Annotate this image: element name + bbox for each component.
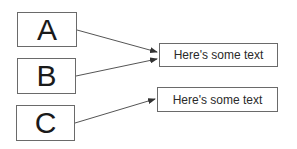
arrow-b-to-text1 [76, 59, 157, 76]
source-box-c: C [16, 105, 75, 141]
source-box-a: A [17, 12, 77, 47]
source-label-b: B [36, 61, 56, 91]
target-box-1: Here's some text [159, 43, 278, 67]
target-label-2: Here's some text [173, 93, 263, 107]
source-box-b: B [17, 58, 76, 94]
source-label-a: A [37, 15, 57, 45]
target-label-1: Here's some text [174, 48, 264, 62]
target-box-2: Here's some text [157, 87, 278, 112]
arrow-c-to-text2 [75, 99, 155, 123]
source-label-c: C [35, 108, 57, 138]
arrow-a-to-text1 [77, 30, 157, 52]
